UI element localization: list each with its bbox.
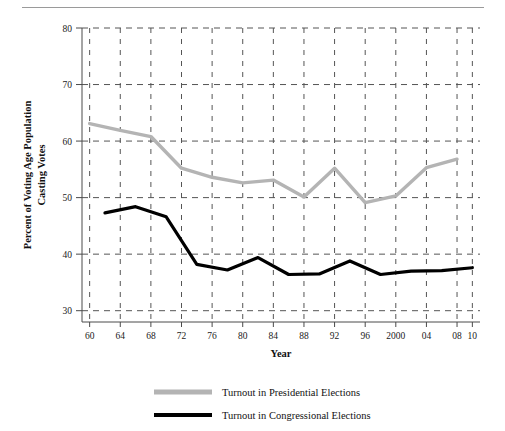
x-tick-label: 60 (85, 331, 95, 341)
y-axis-title-line1: Percent of Voting Age Population (22, 101, 33, 250)
y-tick-label: 80 (63, 24, 73, 34)
y-tick-label: 40 (63, 250, 73, 260)
x-tick-label: 96 (360, 331, 370, 341)
y-tick-label: 50 (63, 193, 73, 203)
legend-label: Turnout in Presidential Elections (222, 387, 360, 398)
x-axis-title: Year (271, 348, 292, 359)
x-tick-label: 76 (207, 331, 217, 341)
series-lines (90, 124, 473, 275)
line-chart: 304050607080 606468727680848892962000040… (0, 0, 505, 431)
y-tick-label: 30 (63, 306, 73, 316)
x-tick-label: 80 (238, 331, 248, 341)
chart-figure: 304050607080 606468727680848892962000040… (0, 0, 505, 431)
x-tick-label: 2000 (386, 331, 405, 341)
x-tick-label: 64 (116, 331, 126, 341)
x-tick-label: 84 (269, 331, 279, 341)
x-tick-label: 10 (468, 331, 478, 341)
x-tick-label: 92 (330, 331, 340, 341)
y-tick-label: 60 (63, 137, 73, 147)
x-tick-label: 68 (146, 331, 156, 341)
y-tick-label: 70 (63, 80, 73, 90)
series-line (105, 207, 472, 275)
y-tick-labels: 304050607080 (63, 24, 73, 317)
x-tick-label: 08 (452, 331, 462, 341)
x-tick-label: 88 (299, 331, 309, 341)
chart-legend: Turnout in Presidential ElectionsTurnout… (154, 387, 371, 421)
x-tick-label: 72 (177, 331, 187, 341)
y-axis-title-line2: Casting Votes (36, 145, 47, 206)
legend-label: Turnout in Congressional Elections (222, 410, 371, 421)
x-tick-labels: 606468727680848892962000040810 (85, 331, 477, 341)
tick-marks (76, 28, 472, 327)
x-tick-label: 04 (422, 331, 432, 341)
